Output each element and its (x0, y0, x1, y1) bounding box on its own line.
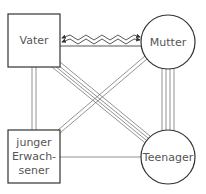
node-label-junger-line2: Erwach- (12, 150, 56, 163)
node-label-junger-line3: sener (19, 164, 50, 177)
node-mutter: Mutter (141, 15, 195, 69)
edge-vater-junger-double (32, 67, 36, 130)
node-label-mutter: Mutter (150, 36, 187, 49)
edge-mutter-teenager-quadruple (162, 68, 174, 131)
edge-vater-teenager-quadruple (52, 62, 150, 142)
node-vater: Vater (8, 14, 60, 67)
node-label-vater: Vater (19, 34, 48, 47)
edge-vater-mutter-conflict (62, 35, 140, 44)
node-teenager: Teenager (141, 130, 195, 184)
node-label-teenager: Teenager (142, 151, 194, 164)
node-label-junger-line1: junger (15, 136, 52, 149)
family-relationship-diagram: Vater Mutter junger Erwach- sener Teenag… (0, 0, 206, 194)
node-junger-erwachsener: junger Erwach- sener (8, 130, 60, 183)
edge-junger-mutter-double (58, 56, 147, 133)
